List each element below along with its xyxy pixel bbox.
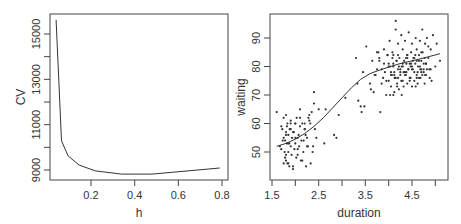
scatter-point [285,134,287,136]
scatter-point [392,54,394,56]
scatter-point [407,68,409,70]
cv-y-tick-label: 15000 [30,19,42,50]
scatter-point [398,65,400,67]
scatter-point [298,145,300,147]
scatter-point [406,54,408,56]
scatter-point [285,131,287,133]
scatter-point [414,54,416,56]
cv-plot-frame [50,14,228,180]
scatter-point [287,151,289,153]
cv-x-tick-label: 0.4 [127,189,142,201]
scatter-point [434,65,436,67]
scatter-point [387,54,389,56]
faithful-y-label: waiting [234,78,248,116]
scatter-point [290,120,292,122]
scatter-point [383,48,385,50]
scatter-point [416,74,418,76]
scatter-point [404,74,406,76]
scatter-point [398,57,400,59]
scatter-point [286,125,288,127]
scatter-point [420,51,422,53]
scatter-point [396,83,398,85]
scatter-point [299,108,301,110]
scatter-point [305,134,307,136]
scatter-point [376,68,378,70]
scatter-point [416,77,418,79]
scatter-point [429,77,431,79]
scatter-point [411,85,413,87]
scatter-point [280,125,282,127]
scatter-point [430,68,432,70]
scatter-point [396,60,398,62]
scatter-point [416,48,418,50]
scatter-point [421,28,423,30]
scatter-point [280,148,282,150]
scatter-point [323,142,325,144]
scatter-point [318,108,320,110]
scatter-point [292,165,294,167]
cv-x-label: h [136,206,143,220]
scatter-point [355,57,357,59]
scatter-point [408,31,410,33]
scatter-point [301,122,303,124]
scatter-point [400,80,402,82]
scatter-point [282,140,284,142]
scatter-point [283,137,285,139]
scatter-point [406,57,408,59]
scatter-point [393,71,395,73]
scatter-point [417,83,419,85]
cv-chart: 9000110001300015000 0.20.40.60.8 h CV [14,14,230,220]
scatter-point [390,74,392,76]
scatter-point [303,140,305,142]
scatter-point [382,77,384,79]
scatter-point [397,68,399,70]
scatter-point [395,28,397,30]
scatter-point [299,125,301,127]
scatter-point [308,114,310,116]
scatter-point [415,37,417,39]
scatter-point [390,71,392,73]
scatter-point [298,134,300,136]
scatter-point [325,108,327,110]
cv-curve [56,20,220,174]
scatter-point [283,117,285,119]
scatter-point [410,77,412,79]
scatter-point [285,160,287,162]
scatter-point [306,137,308,139]
scatter-point [427,45,429,47]
scatter-point [413,57,415,59]
scatter-point [411,65,413,67]
scatter-point [401,94,403,96]
scatter-point [286,122,288,124]
scatter-point [297,154,299,156]
scatter-point [290,128,292,130]
faithful-x-tick-label: 1.5 [264,189,279,201]
scatter-point [291,154,293,156]
scatter-point [344,97,346,99]
scatter-point [424,83,426,85]
scatter-point [292,131,294,133]
scatter-point [292,168,294,170]
faithful-x-axis: 1.52.53.54.5 [264,180,435,201]
scatter-point [419,68,421,70]
faithful-scatter-points [276,20,442,170]
scatter-point [300,160,302,162]
scatter-point [376,51,378,53]
scatter-point [379,111,381,113]
scatter-point [419,40,421,42]
scatter-point [370,88,372,90]
scatter-point [312,145,314,147]
scatter-point [398,88,400,90]
scatter-point [365,45,367,47]
scatter-point [391,57,393,59]
scatter-point [389,40,391,42]
scatter-point [304,128,306,130]
scatter-point [363,105,365,107]
scatter-point [423,68,425,70]
scatter-point [418,60,420,62]
cv-y-tick-label: 13000 [30,64,42,95]
cv-x-axis: 0.20.40.60.8 [83,180,229,201]
scatter-point [383,63,385,65]
scatter-point [302,151,304,153]
scatter-point [385,80,387,82]
